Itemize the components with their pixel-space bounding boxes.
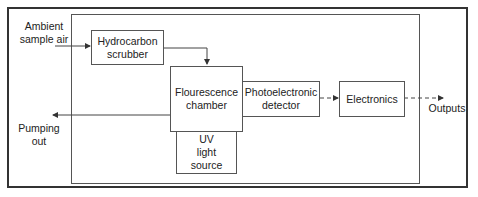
arrow-scrubber-chamber: [163, 48, 207, 64]
outputs-label: Outputs: [424, 102, 470, 115]
uv-light-source-block: UV light source: [176, 130, 237, 174]
electronics-block: Electronics: [339, 81, 405, 117]
hydrocarbon-scrubber-block: Hydrocarbon scrubber: [91, 30, 164, 65]
fluorescence-chamber-block: Flourescence chamber: [170, 66, 243, 132]
photoelectronic-detector-block: Photoelectronic detector: [242, 81, 320, 117]
pumping-out-label: Pumping out: [14, 122, 64, 148]
ambient-air-label: Ambient sample air: [14, 20, 74, 46]
